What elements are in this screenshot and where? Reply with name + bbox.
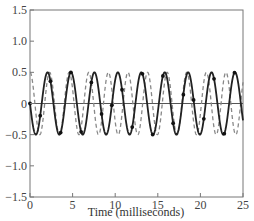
sample-marker (202, 117, 206, 121)
y-tick-label: 1.5 (12, 3, 27, 17)
sample-marker (212, 77, 216, 81)
sample-marker (171, 121, 175, 125)
sample-marker (110, 103, 114, 107)
y-tick-label: 0.5 (12, 65, 27, 79)
sample-marker (192, 98, 196, 102)
sample-marker (233, 71, 237, 75)
x-tick-label: 0 (27, 198, 33, 212)
sample-marker (38, 114, 42, 118)
waveform-chart: 1.51.00.50−0.5−1.0−1.5 0510152025 Time (… (0, 0, 254, 221)
sample-marker (100, 112, 104, 116)
sample-marker (69, 70, 73, 74)
sample-marker (59, 131, 63, 135)
sample-marker (89, 81, 93, 85)
x-axis-title: Time (milliseconds) (88, 205, 185, 219)
sample-marker (49, 79, 53, 83)
sample-marker (130, 125, 134, 129)
y-tick-label: −0.5 (5, 128, 27, 142)
sample-marker (120, 88, 124, 92)
y-tick-label: 0 (21, 97, 27, 111)
sample-marker (222, 132, 226, 136)
sample-marker (181, 93, 185, 97)
y-tick-label: −1.5 (5, 190, 27, 204)
y-tick-label: 1.0 (12, 34, 27, 48)
x-tick-label: 5 (70, 198, 76, 212)
y-tick-label: −1.0 (5, 159, 27, 173)
x-tick-label: 25 (237, 198, 249, 212)
sample-marker (79, 130, 83, 134)
sample-marker (141, 72, 145, 76)
sample-marker (161, 74, 165, 78)
x-tick-label: 20 (194, 198, 206, 212)
sample-marker (151, 133, 155, 137)
